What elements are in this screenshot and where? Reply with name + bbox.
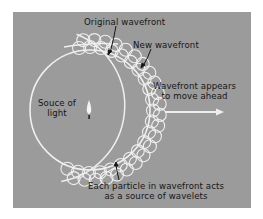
label-wavefront-appears: Wavefront appears to move ahead: [153, 81, 236, 101]
label-each-particle: Each particle in wavefront acts as a sou…: [88, 181, 224, 201]
label-particle-line2: as a source of wavelets: [88, 191, 224, 201]
label-wavefront-appears-line2: to move ahead: [153, 91, 236, 101]
candle-flame-icon: [87, 100, 92, 119]
right-arrow-icon: [165, 109, 224, 116]
label-source-line1: Souce of: [38, 98, 76, 108]
label-wavefront-appears-line1: Wavefront appears: [153, 81, 236, 91]
label-new-wavefront: New wavefront: [133, 40, 199, 50]
label-source-of-light: Souce of light: [38, 98, 76, 118]
label-source-line2: light: [38, 108, 76, 118]
label-original-wavefront: Original wavefront: [84, 17, 165, 27]
label-particle-line1: Each particle in wavefront acts: [88, 181, 224, 191]
